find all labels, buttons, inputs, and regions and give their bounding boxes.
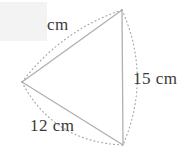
right-edge — [122, 10, 123, 145]
label-upper-left-length: cm — [47, 16, 69, 33]
blank-box — [0, 2, 47, 41]
label-right-length: 15 cm — [133, 70, 178, 87]
label-right-text: 15 cm — [133, 69, 178, 88]
lower-left-edge — [22, 82, 123, 145]
label-upper-left-text: cm — [47, 15, 69, 34]
label-lower-left-length: 12 cm — [30, 117, 75, 134]
figure-canvas: cm 15 cm 12 cm — [0, 0, 186, 159]
label-lower-left-text: 12 cm — [30, 116, 75, 135]
